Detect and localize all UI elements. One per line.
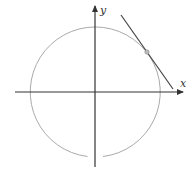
x-axis-label: x: [180, 77, 187, 90]
tangent-point: [145, 50, 149, 54]
unit-circle-diagram: y x: [0, 0, 191, 174]
y-axis-label: y: [99, 4, 107, 17]
